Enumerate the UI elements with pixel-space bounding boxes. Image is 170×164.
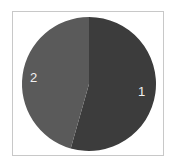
slice-label-2: 2 (30, 71, 37, 84)
pie-chart (0, 0, 170, 164)
slice-label-1: 1 (138, 85, 145, 98)
